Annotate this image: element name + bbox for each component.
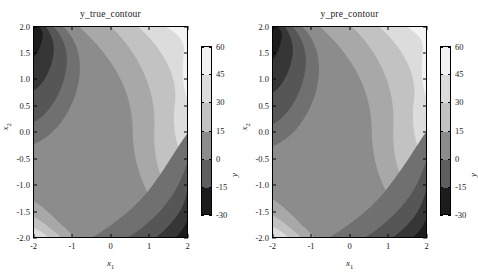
contour-figure: y_true_contour — [0, 0, 478, 280]
ylabel-text: x — [0, 127, 10, 131]
colorbar-tick-label: 60 — [455, 42, 464, 52]
colorbar-tick-label: -30 — [455, 210, 466, 220]
xtick-label: -2 — [30, 241, 37, 251]
colorbar-tick-label: 15 — [455, 126, 464, 136]
ytick-label: 0.5 — [2, 101, 30, 111]
xlabel-subscript: 1 — [350, 263, 353, 270]
colorbar-tick-label: 45 — [216, 69, 225, 79]
ylabel-subscript: 2 — [244, 123, 251, 126]
xtick-label: 1 — [147, 241, 151, 251]
ytick-label: 0.5 — [241, 101, 269, 111]
ytick-label: -1.0 — [241, 180, 269, 190]
xtick-label: 2 — [185, 241, 189, 251]
ytick-label: 1.0 — [241, 74, 269, 84]
colorbar-tick-label: -30 — [216, 210, 227, 220]
colorbar-axis-label-right: y — [468, 168, 478, 182]
xlabel-subscript: 1 — [111, 263, 114, 270]
y-axis-label-right: x2 — [239, 115, 251, 139]
colorbar-tick-label: 0 — [455, 154, 459, 164]
xtick-label: -1 — [307, 241, 314, 251]
panel-y-pre-contour: y_pre_contour — [239, 0, 478, 280]
ytick-label: -1.5 — [241, 207, 269, 217]
colorbar-tick-label: 0 — [216, 154, 220, 164]
x-axis-label-left: x1 — [33, 258, 188, 270]
ytick-label: 2.0 — [2, 22, 30, 32]
colorbar-tick-label: 60 — [216, 42, 225, 52]
ytick-label: -2.0 — [2, 233, 30, 243]
colorbar-axis-label-left: y — [229, 168, 239, 182]
ylabel-text: x — [239, 127, 249, 131]
ytick-label: -0.5 — [241, 154, 269, 164]
xtick-label: 0 — [347, 241, 351, 251]
ytick-label: 2.0 — [241, 22, 269, 32]
xtick-label: -1 — [68, 241, 75, 251]
colorbar-tick-label: -15 — [216, 182, 227, 192]
panel-y-true-contour: y_true_contour — [0, 0, 239, 280]
tick-layer-left: 2.0 1.5 1.0 0.5 0.0 -0.5 -1.0 -1.5 -2.0 … — [33, 26, 188, 238]
ytick-label: -1.5 — [2, 207, 30, 217]
colorbar-tick-label: 15 — [216, 126, 225, 136]
ytick-label: -1.0 — [2, 180, 30, 190]
colorbar-left: 60 45 30 15 0 -15 -30 y — [201, 46, 212, 215]
colorbar-tick-label: 30 — [216, 97, 225, 107]
ytick-label: -2.0 — [241, 233, 269, 243]
panel-title-right: y_pre_contour — [272, 9, 427, 19]
xtick-label: -2 — [269, 241, 276, 251]
ytick-label: 1.5 — [2, 48, 30, 58]
tick-layer-right: 2.0 1.5 1.0 0.5 0.0 -0.5 -1.0 -1.5 -2.0 … — [272, 26, 427, 238]
xtick-label: 1 — [386, 241, 390, 251]
ylabel-subscript: 2 — [5, 123, 12, 126]
colorbar-tick-label: 45 — [455, 69, 464, 79]
x-axis-label-right: x1 — [272, 258, 427, 270]
ytick-label: 1.0 — [2, 74, 30, 84]
colorbar-tick-label: -15 — [455, 182, 466, 192]
xtick-label: 2 — [424, 241, 428, 251]
y-axis-label-left: x2 — [0, 115, 12, 139]
colorbar-tick-label: 30 — [455, 97, 464, 107]
ytick-label: -0.5 — [2, 154, 30, 164]
colorbar-right: 60 45 30 15 0 -15 -30 y — [440, 46, 451, 215]
panel-title-left: y_true_contour — [33, 9, 188, 19]
ytick-label: 1.5 — [241, 48, 269, 58]
xtick-label: 0 — [108, 241, 112, 251]
